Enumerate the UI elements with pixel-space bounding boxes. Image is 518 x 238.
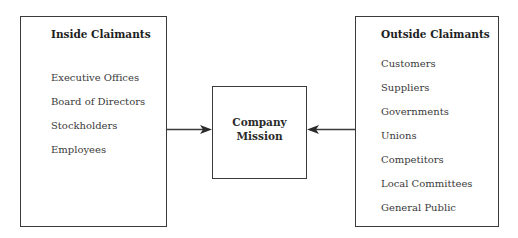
arrow-outside-to-mission: [307, 125, 355, 134]
connector-arrows: [0, 0, 518, 238]
arrow-inside-to-mission: [167, 125, 212, 134]
